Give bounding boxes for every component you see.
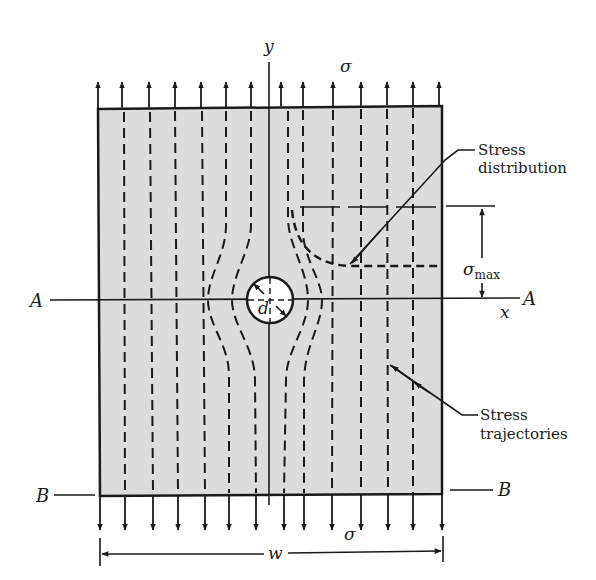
svg-text:trajectories: trajectories	[480, 425, 568, 443]
section-a-right-label: A	[521, 288, 536, 309]
y-axis-label: y	[263, 36, 274, 56]
width-label: w	[268, 543, 283, 563]
x-axis-label: x	[500, 302, 510, 322]
sigma-max-dimension	[446, 206, 495, 297]
sigma-top-label: σ	[340, 56, 352, 76]
svg-text:Stress: Stress	[480, 406, 528, 424]
plate-with-hole-diagram: d σmax y x σ σ A A B B w Stress distribu…	[0, 0, 596, 580]
svg-text:distribution: distribution	[478, 159, 567, 177]
sigma-bottom-label: σ	[344, 524, 356, 544]
sigma-max-label: σmax	[463, 259, 500, 282]
svg-text:Stress: Stress	[478, 141, 526, 159]
section-a-left-label: A	[28, 290, 43, 311]
hole-diameter-label: d	[258, 298, 269, 318]
bottom-tension-arrows	[100, 494, 442, 530]
section-b-left-label: B	[35, 485, 49, 506]
section-b-right-label: B	[497, 479, 511, 500]
